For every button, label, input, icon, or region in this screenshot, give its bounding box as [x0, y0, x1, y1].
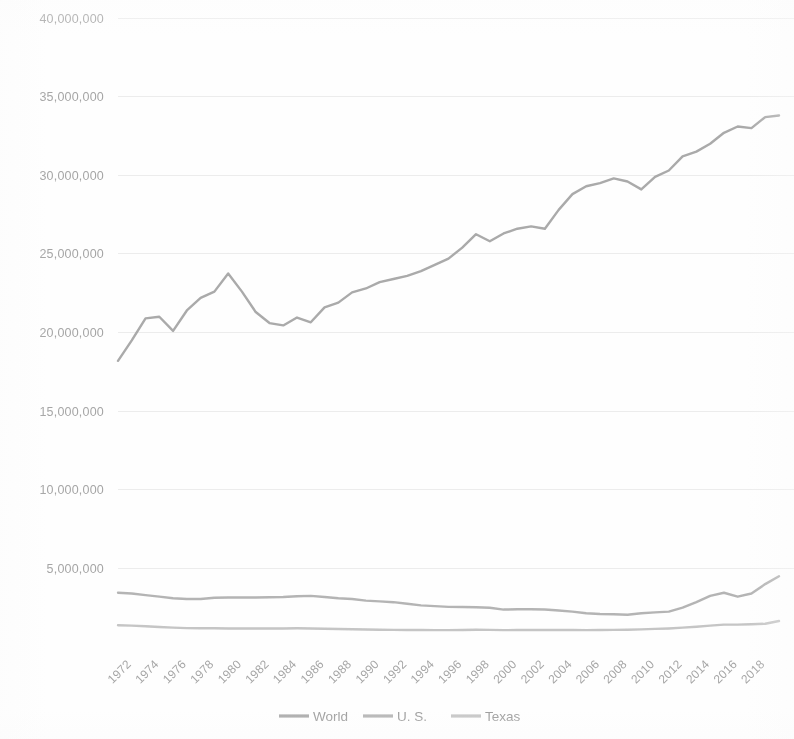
x-tick-label: 2008 — [601, 657, 630, 686]
x-tick-label: 1986 — [298, 657, 327, 686]
x-tick-label: 1972 — [105, 657, 134, 686]
x-tick-label: 2006 — [573, 657, 602, 686]
x-tick-label: 2010 — [628, 657, 657, 686]
gridlines — [118, 18, 794, 568]
x-tick-label: 1974 — [132, 657, 161, 686]
series-line-u-s — [118, 576, 779, 615]
x-tick-label: 2018 — [738, 657, 767, 686]
x-tick-label: 1980 — [215, 657, 244, 686]
x-tick-label: 2014 — [683, 657, 712, 686]
y-tick-label: 30,000,000 — [39, 169, 104, 183]
x-tick-label: 1996 — [435, 657, 464, 686]
legend-label-u-s: U. S. — [397, 709, 427, 724]
x-tick-label: 1998 — [463, 657, 492, 686]
x-tick-label: 2012 — [656, 657, 685, 686]
x-tick-label: 2004 — [545, 657, 574, 686]
series-line-texas — [118, 621, 779, 630]
x-tick-label: 1976 — [160, 657, 189, 686]
x-tick-label: 2000 — [490, 657, 519, 686]
y-tick-label: 10,000,000 — [39, 483, 104, 497]
y-tick-label: 40,000,000 — [39, 12, 104, 26]
x-tick-label: 1990 — [353, 657, 382, 686]
x-tick-label: 1984 — [270, 657, 299, 686]
series-group — [118, 116, 779, 631]
y-axis-tick-labels: 40,000,00035,000,00030,000,00025,000,000… — [39, 12, 104, 576]
y-tick-label: 15,000,000 — [39, 405, 104, 419]
legend-label-world: World — [313, 709, 348, 724]
legend: WorldU. S.Texas — [279, 709, 521, 724]
x-tick-label: 1994 — [408, 657, 437, 686]
x-tick-label: 1978 — [187, 657, 216, 686]
x-tick-label: 2002 — [518, 657, 547, 686]
y-tick-label: 25,000,000 — [39, 247, 104, 261]
x-tick-label: 2016 — [711, 657, 740, 686]
y-tick-label: 5,000,000 — [47, 562, 104, 576]
y-tick-label: 20,000,000 — [39, 326, 104, 340]
legend-label-texas: Texas — [485, 709, 521, 724]
chart-container: 40,000,00035,000,00030,000,00025,000,000… — [0, 0, 794, 739]
x-axis-tick-labels: 1972197419761978198019821984198619881990… — [105, 657, 768, 686]
x-tick-label: 1988 — [325, 657, 354, 686]
series-line-world — [118, 116, 779, 361]
x-tick-label: 1982 — [243, 657, 272, 686]
y-tick-label: 35,000,000 — [39, 90, 104, 104]
x-tick-label: 1992 — [380, 657, 409, 686]
line-chart: 40,000,00035,000,00030,000,00025,000,000… — [0, 0, 794, 739]
